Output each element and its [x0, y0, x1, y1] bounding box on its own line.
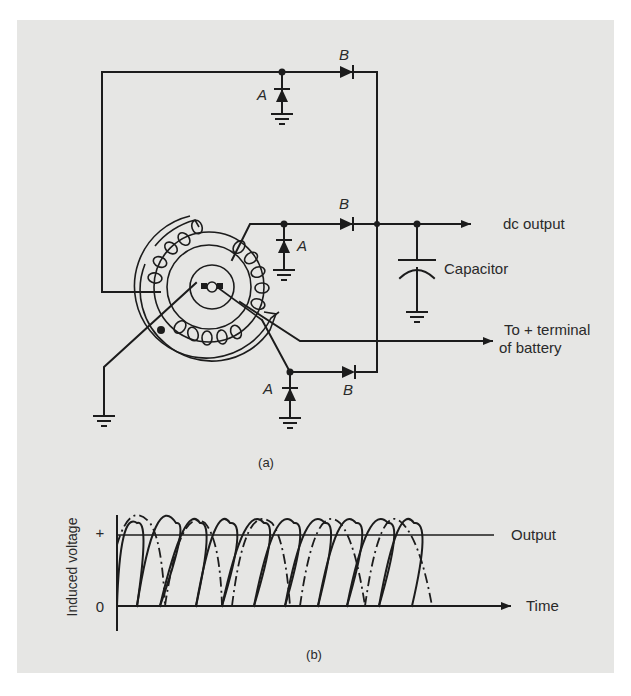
alternator-stator-icon [134, 216, 279, 361]
diode-a-middle-icon [276, 240, 292, 253]
dc-output-label: dc output [503, 215, 566, 232]
diode-a-label: A [296, 237, 307, 254]
y-axis-label: Induced voltage [64, 517, 80, 616]
diode-a-label: A [262, 380, 273, 397]
induced-voltage-waveform: + 0 Induced voltage Output Time (b) [64, 515, 559, 662]
diode-b-bottom-icon [342, 365, 355, 379]
x-axis-label: Time [526, 597, 559, 614]
diode-a-top-icon [274, 89, 290, 102]
battery-wire [240, 302, 492, 341]
caption-a: (a) [258, 455, 274, 470]
ground-icon [93, 416, 115, 426]
bottom-phase-wire [262, 320, 343, 372]
battery-label-line2: of battery [499, 339, 562, 356]
diode-b-label: B [339, 195, 349, 212]
diode-b-label: B [343, 381, 353, 398]
neutral-wire [104, 283, 196, 415]
diode-b-top-icon [340, 65, 353, 79]
diode-b-middle-icon [340, 217, 353, 231]
y-tick-zero: 0 [96, 598, 104, 615]
diode-a-bottom-icon [282, 388, 298, 401]
ground-icon [279, 418, 301, 428]
ground-icon [271, 114, 293, 124]
ground-icon [273, 270, 295, 280]
y-tick-plus: + [96, 524, 105, 541]
ground-icon [406, 312, 428, 322]
diode-b-label: B [339, 46, 349, 63]
caption-b: (b) [306, 647, 322, 662]
middle-phase-wire [232, 224, 470, 260]
circuit-schematic: A B A B A B dc output Capacitor To + ter… [93, 46, 590, 470]
battery-label-line1: To + terminal [504, 321, 590, 338]
diode-a-label: A [256, 86, 267, 103]
output-label: Output [511, 526, 557, 543]
alternator-rectifier-diagram: A B A B A B dc output Capacitor To + ter… [0, 0, 631, 696]
capacitor-label: Capacitor [444, 260, 508, 277]
